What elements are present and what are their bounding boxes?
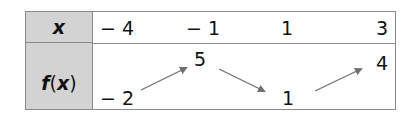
arrow-down-icon [219,69,264,91]
arrows-layer [0,0,407,120]
arrow-up-icon [315,69,361,91]
arrow-up-icon [141,68,186,90]
